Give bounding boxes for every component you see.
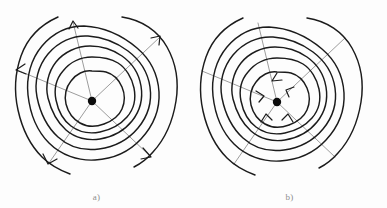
panel-b-drawing bbox=[193, 0, 386, 208]
arrowhead-southwest-inward bbox=[261, 114, 272, 122]
panel-b-label: b) bbox=[193, 192, 386, 202]
ray-southeast bbox=[92, 101, 150, 156]
contour-level-6b bbox=[307, 18, 362, 168]
ray-north bbox=[258, 23, 277, 102]
contour-level-2 bbox=[240, 58, 319, 134]
contour-level-6b bbox=[122, 17, 177, 167]
panel-a-contours bbox=[16, 17, 178, 174]
contour-level-2 bbox=[55, 57, 134, 133]
contour-level-6 bbox=[201, 18, 255, 175]
panel-a-label: a) bbox=[0, 192, 193, 202]
arrowhead-southeast-outward bbox=[141, 148, 151, 159]
center-dot bbox=[88, 97, 96, 105]
arrowhead-northeast-inward bbox=[286, 87, 294, 97]
ray-southeast bbox=[277, 102, 335, 157]
panel-b-contours bbox=[201, 18, 363, 175]
panel-a: a) bbox=[0, 0, 193, 208]
panel-b-arrowheads bbox=[256, 73, 294, 122]
arrowhead-north-inward bbox=[272, 73, 282, 81]
panel-b: b) bbox=[193, 0, 386, 208]
arrowhead-southwest-outward bbox=[43, 154, 57, 164]
ray-north bbox=[73, 22, 92, 101]
panel-a-drawing bbox=[0, 0, 193, 208]
contour-figure: a) bbox=[0, 0, 387, 208]
center-dot bbox=[273, 98, 281, 106]
contour-level-6 bbox=[16, 17, 70, 174]
